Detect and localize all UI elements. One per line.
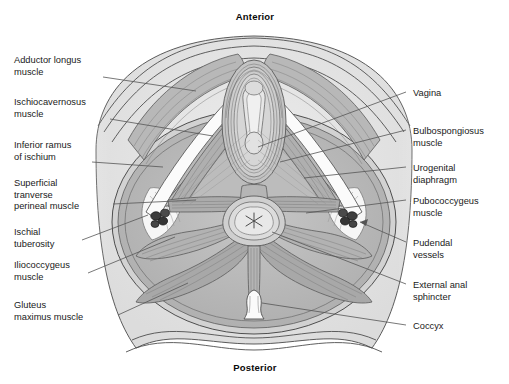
vaginal-opening <box>222 60 286 184</box>
label-vagina: Vagina <box>413 88 441 100</box>
label-adductor-longus: Adductor longus muscle <box>14 55 81 78</box>
label-coccyx: Coccyx <box>413 321 443 333</box>
label-pubococcygeus-muscle: Pubococcygeus muscle <box>413 196 479 219</box>
label-external-anal-sphincter: External anal sphincter <box>413 280 467 303</box>
orientation-label-anterior: Anterior <box>175 11 335 22</box>
anococcygeal-raphe <box>248 246 260 296</box>
anatomical-figure-canvas: Anterior Posterior Adductor longus muscl… <box>0 0 509 384</box>
label-pudendal-vessels: Pudendal vessels <box>413 238 452 261</box>
label-iliococcygeus-muscle: Iliococcygeus muscle <box>14 260 70 283</box>
external-anal-sphincter <box>223 196 285 246</box>
label-urogenital-diaphragm: Urogenital diaphragm <box>413 163 457 186</box>
label-superficial-transverse-perineal-muscle: Superficial tranverse perineal muscle <box>14 178 79 213</box>
label-gluteus-maximus-muscle: Gluteus maximus muscle <box>14 300 83 323</box>
label-bulbospongiosus-muscle: Bulbospongiosus muscle <box>413 126 484 149</box>
label-inferior-ramus-of-ischium: Inferior ramus of ischium <box>14 140 71 163</box>
label-ischiocavernosus: Ischiocavernosus muscle <box>14 97 86 120</box>
orientation-label-posterior: Posterior <box>175 362 335 373</box>
label-ischial-tuberosity: Ischial tuberosity <box>14 227 54 250</box>
